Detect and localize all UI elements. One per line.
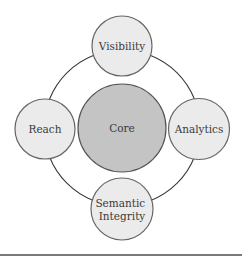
semantic-integrity-label-line-1: Semantic: [95, 197, 145, 209]
analytics-label-line: Analytics: [174, 123, 224, 135]
bottom-divider: [0, 254, 242, 256]
semantic-integrity-label: Semantic Integrity: [95, 197, 148, 222]
node-analytics: Analytics: [169, 99, 230, 160]
node-visibility: Visibility: [92, 16, 152, 76]
reach-label: Reach: [28, 123, 61, 135]
analytics-label: Analytics: [174, 123, 224, 135]
core-label: Core: [109, 122, 135, 134]
reach-label-line: Reach: [28, 123, 61, 135]
core-node: Core: [78, 84, 166, 172]
node-reach: Reach: [15, 99, 75, 159]
visibility-label-line: Visibility: [98, 40, 146, 52]
visibility-label: Visibility: [98, 40, 146, 52]
node-semantic-integrity: Semantic Integrity: [91, 178, 153, 240]
semantic-integrity-label-line-2: Integrity: [99, 210, 146, 222]
hub-and-ring-diagram: Core Visibility Analytics Semantic Integ…: [0, 0, 242, 257]
